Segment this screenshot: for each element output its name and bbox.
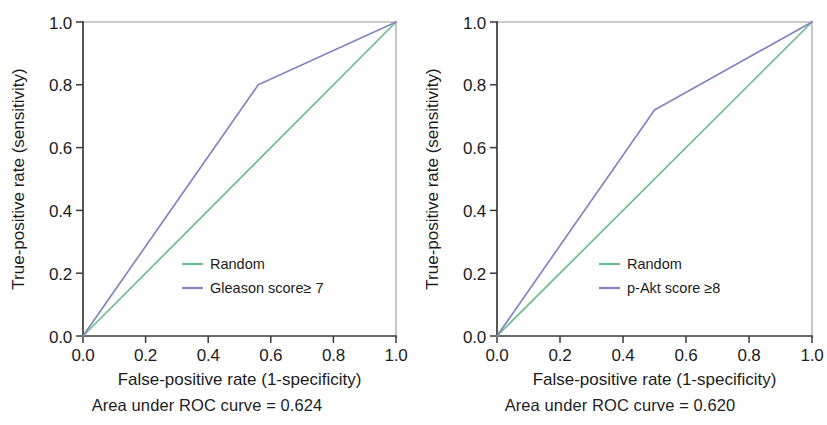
y-tick-label: 0.6: [463, 139, 486, 158]
x-tick-label: 0.4: [611, 346, 634, 365]
x-tick-label: 1.0: [384, 346, 407, 365]
x-tick-label: 0.8: [737, 346, 760, 365]
legend-label-random: Random: [210, 256, 265, 272]
x-axis-tick-labels: 0.0 0.2 0.4 0.6 0.8 1.0: [485, 346, 823, 365]
legend-label-random: Random: [627, 256, 682, 272]
x-axis-ticks: [497, 336, 812, 343]
y-tick-label: 0.2: [463, 265, 486, 284]
x-tick-label: 0.2: [134, 346, 157, 365]
x-axis-title: False-positive rate (1-specificity): [118, 370, 362, 389]
y-tick-label: 0.8: [49, 76, 72, 95]
y-tick-label: 1.0: [49, 14, 72, 33]
x-tick-label: 0.6: [259, 346, 282, 365]
legend-label-model: p-Akt score ≥8: [627, 280, 720, 296]
x-tick-label: 0.0: [71, 346, 94, 365]
auc-caption: Area under ROC curve = 0.620: [413, 396, 827, 415]
x-axis-title: False-positive rate (1-specificity): [533, 370, 777, 389]
auc-caption: Area under ROC curve = 0.624: [0, 396, 414, 415]
y-tick-label: 0.2: [49, 265, 72, 284]
y-tick-label: 1.0: [463, 14, 486, 33]
roc-curve-figure: 1.0 0.8 0.6 0.4 0.2 0.0 0.0 0.2 0.4: [0, 0, 827, 425]
legend: Random p-Akt score ≥8: [599, 256, 720, 296]
x-tick-label: 0.2: [548, 346, 571, 365]
roc-panel-pakt: 1.0 0.8 0.6 0.4 0.2 0.0 0.0 0.2 0.4 0.6: [413, 0, 827, 425]
y-tick-label: 0.4: [463, 202, 486, 221]
y-tick-label: 0.6: [49, 139, 72, 158]
y-axis-ticks: [490, 22, 497, 336]
roc-plot-pakt: 1.0 0.8 0.6 0.4 0.2 0.0 0.0 0.2 0.4 0.6: [413, 0, 827, 400]
roc-panel-gleason: 1.0 0.8 0.6 0.4 0.2 0.0 0.0 0.2 0.4: [0, 0, 414, 425]
y-axis-tick-labels: 1.0 0.8 0.6 0.4 0.2 0.0: [463, 14, 486, 347]
y-tick-label: 0.0: [49, 328, 72, 347]
x-tick-label: 0.4: [197, 346, 220, 365]
x-tick-label: 0.6: [674, 346, 697, 365]
y-axis-ticks: [76, 22, 83, 336]
x-tick-label: 0.0: [485, 346, 508, 365]
legend: Random Gleason score≥ 7: [182, 256, 324, 296]
roc-plot-gleason: 1.0 0.8 0.6 0.4 0.2 0.0 0.0 0.2 0.4: [0, 0, 414, 400]
x-axis-tick-labels: 0.0 0.2 0.4 0.6 0.8 1.0: [71, 346, 407, 365]
y-axis-title: True-positive rate (sensitivity): [9, 68, 28, 289]
y-tick-label: 0.4: [49, 202, 72, 221]
x-tick-label: 1.0: [800, 346, 823, 365]
y-tick-label: 0.0: [463, 328, 486, 347]
x-axis-ticks: [83, 336, 396, 343]
y-tick-label: 0.8: [463, 76, 486, 95]
y-axis-title: True-positive rate (sensitivity): [423, 68, 442, 289]
y-axis-tick-labels: 1.0 0.8 0.6 0.4 0.2 0.0: [49, 14, 72, 347]
x-tick-label: 0.8: [322, 346, 345, 365]
legend-label-model: Gleason score≥ 7: [210, 280, 324, 296]
